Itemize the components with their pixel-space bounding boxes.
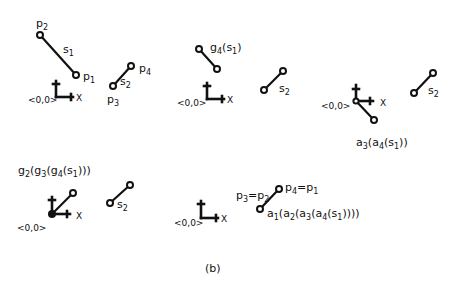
x-axis-label: X (76, 211, 82, 221)
label-g2-g3-g4-s1: g2(g3(g4(s1))) (18, 164, 91, 179)
label-p4: p4 (139, 62, 151, 77)
panel-1: p2 s1 p1 <0,0> X p3 p4 s2 (28, 17, 151, 108)
x-axis-label: X (380, 98, 386, 108)
origin-label: <0,0> (177, 98, 206, 108)
label-g4-s1: g4(s1) (210, 41, 242, 56)
x-axis-label: X (221, 214, 227, 224)
x-axis-label: X (76, 93, 82, 103)
x-axis-label: X (227, 95, 233, 105)
label-a1-a2-a3-a4-s1: a1(a2(a3(a4(s1)))) (267, 207, 360, 222)
label-p4-eq-p1: p4=p1 (285, 181, 318, 196)
point-p2 (37, 32, 43, 38)
figure-caption: (b) (205, 262, 221, 275)
coordinate-axes-icon (204, 83, 224, 102)
origin-label: <0,0> (321, 101, 350, 111)
label-s1: s1 (63, 43, 74, 58)
origin-label: <0,0> (174, 218, 203, 228)
label-s2: s2 (428, 84, 439, 99)
label-p2: p2 (36, 17, 48, 32)
point-p4 (128, 63, 134, 69)
label-p3: p3 (107, 93, 119, 108)
label-s2: s2 (117, 198, 128, 213)
origin-label: <0,0> (17, 223, 46, 233)
origin-label: <0,0> (28, 95, 57, 105)
label-a3-a4-s1: a3(a4(s1)) (356, 136, 408, 151)
label-p3-eq-p2: p3=p2 (236, 189, 269, 204)
panel-2: g4(s1) <0,0> X s2 (177, 41, 290, 108)
assembly-diagram: .ln { stroke:#111; stroke-width:2.2; fil… (0, 0, 457, 303)
panel-3: <0,0> X s2 a3(a4(s1)) (321, 70, 439, 151)
label-s2: s2 (120, 75, 131, 90)
point-p1 (73, 72, 79, 78)
point-p3 (110, 83, 116, 89)
label-s2: s2 (279, 82, 290, 97)
origin-point (48, 210, 56, 218)
label-p1: p1 (83, 70, 95, 85)
panel-4: g2(g3(g4(s1))) <0,0> X s2 (17, 164, 133, 233)
panel-5: <0,0> X p3=p2 p4=p1 a1(a2(a3(a4(s1)))) (174, 181, 360, 228)
